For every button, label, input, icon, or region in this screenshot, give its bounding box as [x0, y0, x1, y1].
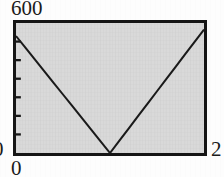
- data-series-line: [16, 30, 204, 154]
- plot-area: [13, 20, 207, 156]
- y-axis-tick-marks: [16, 42, 21, 135]
- plot-canvas: [16, 23, 204, 153]
- chart-figure: 600 0 0 2: [0, 0, 224, 177]
- x-axis-max-label: 2: [211, 139, 222, 160]
- y-axis-max-label: 600: [11, 0, 43, 19]
- x-axis-min-label: 0: [11, 158, 22, 177]
- y-axis-min-label: 0: [0, 139, 4, 160]
